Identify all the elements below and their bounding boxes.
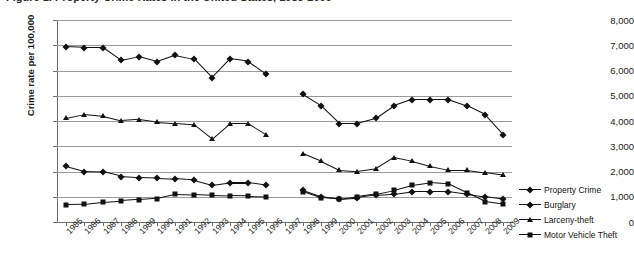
legend-label: Burglary [544,200,576,210]
data-point-marker [337,197,342,202]
chart-legend: Property CrimeBurglaryLarceny-theftMotor… [519,182,617,242]
y-tick-label: 4,000 [586,117,634,126]
data-point-marker [373,192,378,197]
data-point-marker [136,197,141,202]
chart-title: Figure 1. Property Crime Rates in the Un… [6,0,332,3]
y-tick-label: 5,000 [586,91,634,100]
data-point-marker [118,199,123,204]
y-tick-label: 7,000 [586,41,634,50]
triangle-marker-icon [519,215,541,225]
data-point-marker [300,189,305,194]
data-point-marker [209,193,214,198]
y-tick-label: 3,000 [586,142,634,151]
legend-item-larceny-theft[interactable]: Larceny-theft [519,212,617,227]
legend-label: Larceny-theft [544,215,594,225]
plot-area [57,20,512,222]
data-point-marker [318,196,323,201]
chart-title-clipped: Figure 1. Property Crime Rates in the Un… [0,0,634,9]
data-point-marker [446,182,451,187]
data-point-marker [155,196,160,201]
y-axis-label: Crime rate per 100,000 [25,0,36,156]
y-tick-label: 2,000 [586,167,634,176]
y-tick-label: 6,000 [586,66,634,75]
series-motor-vehicle-theft [57,20,512,222]
data-point-marker [500,202,505,207]
legend-label: Motor Vehicle Theft [544,230,617,240]
legend-item-burglary[interactable]: Burglary [519,197,617,212]
data-point-marker [355,194,360,199]
legend-label: Property Crime [544,185,601,195]
data-point-marker [227,193,232,198]
data-point-marker [264,194,269,199]
diamond-marker-icon [519,185,541,195]
data-point-marker [464,190,469,195]
legend-item-motor-vehicle-theft[interactable]: Motor Vehicle Theft [519,227,617,242]
data-point-marker [391,188,396,193]
chart-figure: Figure 1. Property Crime Rates in the Un… [0,0,634,265]
y-tick-label: 8,000 [586,16,634,25]
data-point-marker [191,192,196,197]
data-point-marker [428,180,433,185]
y-tick-mark [53,222,57,223]
data-point-marker [64,202,69,207]
diamond-marker-icon [519,200,541,210]
data-point-marker [246,194,251,199]
data-point-marker [409,183,414,188]
data-point-marker [100,200,105,205]
data-point-marker [82,202,87,207]
square-marker-icon [519,230,541,240]
data-point-marker [482,199,487,204]
data-point-marker [173,192,178,197]
legend-item-property-crime[interactable]: Property Crime [519,182,617,197]
